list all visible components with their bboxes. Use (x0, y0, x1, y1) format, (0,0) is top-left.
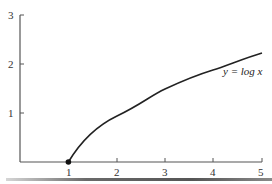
y-tick-label-1: 1 (8, 107, 14, 119)
x-tick-label-5: 5 (258, 166, 264, 178)
y-tick-label-2: 2 (8, 58, 14, 70)
log-function-chart: 3 2 1 1 2 3 4 5 y = log x (0, 0, 272, 184)
x-tick-label-2: 2 (114, 166, 120, 178)
curve-label: y = log x (222, 65, 263, 77)
x-tick-label-4: 4 (210, 166, 216, 178)
bottom-rule (6, 178, 272, 181)
y-tick-label-3: 3 (8, 9, 14, 21)
x-tick-label-3: 3 (162, 166, 168, 178)
x-tick-label-1: 1 (66, 166, 72, 178)
point-marker (66, 159, 72, 165)
